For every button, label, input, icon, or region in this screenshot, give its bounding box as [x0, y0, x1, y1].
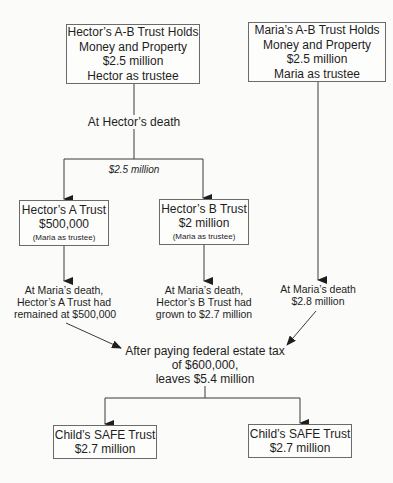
- maria-ab-line-2: Money and Property: [263, 38, 371, 53]
- maria-ab-line-3: $2.5 million: [287, 52, 348, 67]
- child-safe-trust-2-box: Child’s SAFE Trust $2.7 million: [248, 424, 352, 458]
- hector-a-amount: $500,000: [39, 217, 89, 232]
- child-1-amount: $2.7 million: [75, 442, 136, 457]
- hector-ab-line-4: Hector as trustee: [87, 69, 178, 84]
- hector-a-title: Hector’s A Trust: [22, 203, 106, 218]
- split-amount-label: $2.5 million: [104, 164, 164, 176]
- after-tax-line-1: After paying federal estate tax: [125, 344, 285, 358]
- event-hector-death: At Hector’s death: [84, 115, 184, 129]
- maria-death-line-1: At Maria’s death: [278, 283, 358, 295]
- hector-ab-line-3: $2.5 million: [103, 54, 164, 69]
- child-2-title: Child’s SAFE Trust: [250, 427, 350, 442]
- hector-b-amount: $2 million: [179, 216, 230, 231]
- b-death-line-1: At Maria’s death,: [154, 284, 254, 296]
- maria-trust-at-death: At Maria’s death $2.8 million: [278, 283, 358, 307]
- b-trust-at-maria-death: At Maria’s death, Hector’s B Trust had g…: [154, 284, 254, 320]
- a-trust-at-maria-death: At Maria’s death, Hector’s A Trust had r…: [14, 284, 114, 320]
- child-2-amount: $2.7 million: [270, 441, 331, 456]
- hector-a-trust-box: Hector’s A Trust $500,000 (Maria as trus…: [19, 200, 109, 246]
- a-death-line-3: remained at $500,000: [14, 308, 114, 320]
- a-death-line-2: Hector’s A Trust had: [14, 296, 114, 308]
- b-death-line-3: grown to $2.7 million: [154, 308, 254, 320]
- child-safe-trust-1-box: Child’s SAFE Trust $2.7 million: [53, 425, 157, 459]
- hector-ab-trust-box: Hector’s A-B Trust Holds Money and Prope…: [66, 24, 200, 84]
- hector-b-note: (Maria as trustee): [173, 231, 236, 243]
- child-1-title: Child’s SAFE Trust: [55, 428, 155, 443]
- maria-ab-line-4: Maria as trustee: [274, 67, 360, 82]
- after-tax-line-2: of $600,000,: [125, 358, 285, 372]
- maria-ab-line-1: Maria’s A-B Trust Holds: [254, 23, 379, 38]
- hector-b-trust-box: Hector’s B Trust $2 million (Maria as tr…: [159, 199, 249, 245]
- hector-ab-line-2: Money and Property: [79, 40, 187, 55]
- a-death-line-1: At Maria’s death,: [14, 284, 114, 296]
- hector-a-note: (Maria as trustee): [33, 232, 96, 244]
- hector-b-title: Hector’s B Trust: [161, 202, 247, 217]
- maria-ab-trust-box: Maria’s A-B Trust Holds Money and Proper…: [248, 22, 386, 82]
- b-death-line-2: Hector’s B Trust had: [154, 296, 254, 308]
- maria-death-line-2: $2.8 million: [278, 295, 358, 307]
- hector-ab-line-1: Hector’s A-B Trust Holds: [68, 25, 199, 40]
- after-tax-summary: After paying federal estate tax of $600,…: [125, 344, 285, 386]
- after-tax-line-3: leaves $5.4 million: [125, 372, 285, 386]
